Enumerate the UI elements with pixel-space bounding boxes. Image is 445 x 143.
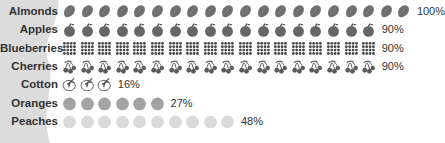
peach-icon	[150, 114, 165, 129]
peach-icon	[203, 114, 218, 129]
almond-icon	[150, 4, 165, 19]
apple-icon	[185, 22, 200, 37]
peach-icon	[220, 114, 235, 129]
cherry-icon	[203, 59, 218, 74]
peach-icon	[80, 114, 95, 129]
apple-icon	[344, 22, 359, 37]
value-label: 90%	[382, 23, 404, 35]
category-label: Almonds	[0, 5, 62, 17]
apple-icon	[361, 22, 376, 37]
apple-icon	[273, 22, 288, 37]
blueberry-icon	[326, 41, 341, 56]
cherry-icon	[97, 59, 112, 74]
category-label: Peaches	[0, 115, 62, 127]
icon-group	[62, 41, 379, 56]
almond-icon	[115, 4, 130, 19]
cotton-icon	[62, 77, 77, 92]
category-label: Cotton	[0, 78, 62, 90]
blueberry-icon	[150, 41, 165, 56]
apple-icon	[132, 22, 147, 37]
apple-icon	[291, 22, 306, 37]
apple-icon	[256, 22, 271, 37]
category-label: Apples	[0, 23, 62, 35]
chart-row-cotton: Cotton16%	[0, 75, 140, 93]
peach-icon	[97, 114, 112, 129]
value-label: 16%	[118, 78, 140, 90]
almond-icon	[396, 4, 411, 19]
almond-icon	[379, 4, 394, 19]
category-label: Oranges	[0, 97, 62, 109]
blueberry-icon	[308, 41, 323, 56]
icon-group	[62, 59, 379, 74]
blueberry-icon	[132, 41, 147, 56]
blueberry-icon	[344, 41, 359, 56]
cotton-icon	[97, 77, 112, 92]
almond-icon	[238, 4, 253, 19]
blueberry-icon	[256, 41, 271, 56]
cherry-icon	[115, 59, 130, 74]
peach-icon	[62, 114, 77, 129]
value-label: 90%	[382, 60, 404, 72]
almond-icon	[308, 4, 323, 19]
apple-icon	[115, 22, 130, 37]
cherry-icon	[132, 59, 147, 74]
apple-icon	[238, 22, 253, 37]
cherry-icon	[344, 59, 359, 74]
icon-group	[62, 96, 168, 111]
blueberry-icon	[220, 41, 235, 56]
orange-icon	[80, 96, 95, 111]
peach-icon	[185, 114, 200, 129]
orange-icon	[132, 96, 147, 111]
apple-icon	[203, 22, 218, 37]
almond-icon	[203, 4, 218, 19]
almond-icon	[62, 4, 77, 19]
orange-icon	[97, 96, 112, 111]
apple-icon	[80, 22, 95, 37]
almond-icon	[220, 4, 235, 19]
chart-row-almonds: Almonds100%	[0, 2, 445, 20]
apple-icon	[326, 22, 341, 37]
cherry-icon	[168, 59, 183, 74]
cherry-icon	[150, 59, 165, 74]
cherry-icon	[238, 59, 253, 74]
cherry-icon	[185, 59, 200, 74]
chart-row-oranges: Oranges27%	[0, 94, 193, 112]
almond-icon	[185, 4, 200, 19]
icon-group	[62, 114, 238, 129]
icon-group	[62, 4, 414, 19]
peach-icon	[168, 114, 183, 129]
blueberry-icon	[185, 41, 200, 56]
blueberry-icon	[115, 41, 130, 56]
value-label: 90%	[382, 42, 404, 54]
cherry-icon	[308, 59, 323, 74]
almond-icon	[326, 4, 341, 19]
cherry-icon	[273, 59, 288, 74]
cotton-icon	[80, 77, 95, 92]
category-label: Blueberries	[0, 42, 62, 54]
almond-icon	[132, 4, 147, 19]
value-label: 48%	[241, 115, 263, 127]
almond-icon	[361, 4, 376, 19]
cherry-icon	[361, 59, 376, 74]
almond-icon	[291, 4, 306, 19]
orange-icon	[115, 96, 130, 111]
apple-icon	[97, 22, 112, 37]
blueberry-icon	[80, 41, 95, 56]
chart-row-blueberries: Blueberries90%	[0, 39, 404, 57]
almond-icon	[168, 4, 183, 19]
almond-icon	[80, 4, 95, 19]
chart-row-cherries: Cherries90%	[0, 57, 404, 75]
almond-icon	[256, 4, 271, 19]
blueberry-icon	[97, 41, 112, 56]
blueberry-icon	[203, 41, 218, 56]
icon-group	[62, 22, 379, 37]
blueberry-icon	[62, 41, 77, 56]
peach-icon	[132, 114, 147, 129]
value-label: 27%	[171, 97, 193, 109]
chart-row-peaches: Peaches48%	[0, 112, 263, 130]
category-label: Cherries	[0, 60, 62, 72]
almond-icon	[273, 4, 288, 19]
icon-group	[62, 77, 115, 92]
blueberry-icon	[273, 41, 288, 56]
